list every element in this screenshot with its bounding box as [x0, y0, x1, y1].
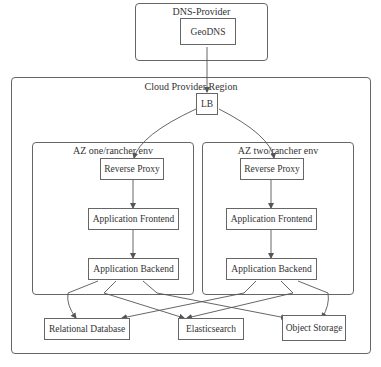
az-one-app-backend-node: Application Backend — [88, 258, 179, 280]
relational-database-node: Relational Database — [44, 318, 130, 340]
az-two-app-backend-node: Application Backend — [226, 258, 317, 280]
az-one-app-frontend-node: Application Frontend — [88, 208, 179, 230]
geodns-node: GeoDNS — [180, 18, 236, 45]
az-two-reverse-proxy-node: Reverse Proxy — [240, 158, 304, 180]
az-one-reverse-proxy-node: Reverse Proxy — [100, 158, 164, 180]
az-two-app-frontend-node: Application Frontend — [226, 208, 317, 230]
edges-layer — [0, 0, 381, 367]
object-storage-node: Object Storage — [282, 315, 346, 341]
lb-node: LB — [196, 93, 218, 115]
elasticsearch-node: Elasticsearch — [178, 318, 244, 340]
